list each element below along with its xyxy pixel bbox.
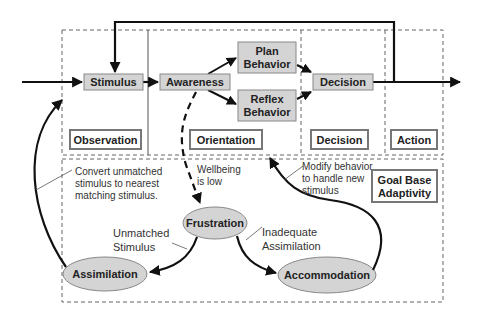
adaptivity-text: Adaptivity [378, 187, 432, 199]
inadequate-line-2: Assimilation [262, 240, 321, 252]
action-text: Action [397, 134, 432, 146]
modify-leader-line [284, 166, 303, 180]
accommodation-node: Accommodation [278, 257, 376, 293]
wellbeing-line-2: is low [197, 176, 223, 187]
awareness-to-plan-arrow [208, 58, 236, 74]
inadequate-line-1: Inadequate [262, 226, 317, 238]
convert-line-1: Convert unmatched [75, 166, 162, 177]
decision-text: Decision [317, 134, 363, 146]
decision-phase-label: Decision [311, 130, 368, 149]
reflex-to-decision-arrow [297, 92, 311, 99]
goal-base-adaptivity-label: Goal Base Adaptivity [372, 170, 437, 202]
frustration-node: Frustration [183, 207, 247, 239]
wellbeing-line-1: Wellbeing [197, 164, 241, 175]
frustration-to-assimilation-arrow [150, 237, 197, 272]
modify-annotation: Modify behavior to handle new stimulus [302, 161, 373, 196]
orientation-text: Orientation [197, 134, 256, 146]
plan-behavior-node: Plan Behavior [238, 42, 296, 73]
reflex-label: Reflex [250, 93, 284, 105]
ooda-adaptivity-diagram: Stimulus Awareness Plan Behavior Reflex … [0, 0, 484, 318]
modify-line-3: stimulus [302, 185, 339, 196]
decision-node: Decision [313, 74, 373, 90]
stimulus-label: Stimulus [90, 76, 136, 88]
plan-behavior-label: Behavior [243, 58, 291, 70]
plan-label: Plan [255, 45, 279, 57]
goal-base-text: Goal Base [378, 174, 432, 186]
wellbeing-annotation: Wellbeing is low [197, 164, 241, 187]
inadequate-leader-line [246, 227, 262, 240]
assimilation-label: Assimilation [72, 268, 138, 280]
convert-line-3: matching stimulus. [75, 190, 158, 201]
plan-to-decision-arrow [297, 65, 311, 72]
action-phase-label: Action [391, 130, 437, 149]
observation-text: Observation [73, 134, 137, 146]
modify-line-1: Modify behavior [302, 161, 373, 172]
convert-line-2: stimulus to nearest [75, 178, 159, 189]
awareness-to-reflex-arrow [208, 90, 236, 104]
stimulus-node: Stimulus [84, 74, 143, 90]
frustration-label: Frustration [186, 217, 244, 229]
unmatched-line-1: Unmatched [113, 227, 169, 239]
reflex-behavior-node: Reflex Behavior [238, 90, 296, 121]
convert-leader-line [36, 170, 72, 190]
observation-phase-label: Observation [70, 130, 141, 149]
reflex-behavior-label: Behavior [243, 106, 291, 118]
modify-line-2: to handle new [302, 173, 365, 184]
unmatched-stimulus-annotation: Unmatched Stimulus [113, 227, 169, 253]
unmatched-line-2: Stimulus [113, 241, 156, 253]
awareness-label: Awareness [166, 76, 224, 88]
awareness-node: Awareness [160, 74, 230, 90]
accommodation-label: Accommodation [284, 269, 370, 281]
unmatched-leader-line [172, 243, 187, 249]
decision-node-label: Decision [320, 76, 366, 88]
orientation-phase-label: Orientation [190, 130, 262, 149]
convert-annotation: Convert unmatched stimulus to nearest ma… [75, 166, 162, 201]
assimilation-to-observation-arrow [35, 100, 66, 267]
assimilation-node: Assimilation [63, 257, 147, 291]
inadequate-assimilation-annotation: Inadequate Assimilation [262, 226, 321, 252]
